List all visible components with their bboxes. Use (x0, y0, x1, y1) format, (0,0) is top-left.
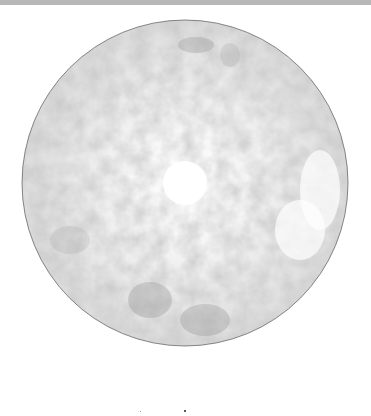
polar-map (0, 0, 371, 370)
polar-stereographic-map (0, 0, 371, 370)
footer-mark (184, 410, 186, 412)
scale-bar-section (0, 360, 371, 416)
surface-texture (22, 20, 348, 346)
footer-mark-small (140, 411, 141, 412)
scale-bar (0, 360, 371, 400)
